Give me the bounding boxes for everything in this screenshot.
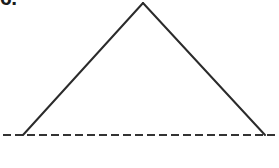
triangle-right-leg [143,3,265,135]
figure-canvas: 6. [0,0,279,168]
triangle-left-leg [23,3,143,135]
triangle-figure-svg [0,0,279,168]
